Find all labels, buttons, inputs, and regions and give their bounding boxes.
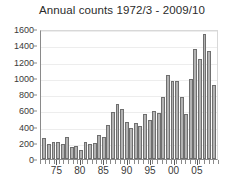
- y-tick-mark: [33, 111, 37, 112]
- chart-figure: Annual counts 1972/3 - 2009/10 020040060…: [0, 0, 244, 184]
- bar: [212, 85, 216, 159]
- x-tick-label: 80: [74, 165, 85, 176]
- x-tick-mark-minor: [96, 160, 97, 164]
- x-tick-mark-minor: [171, 160, 172, 164]
- x-tick-mark-minor: [68, 160, 69, 164]
- x-tick-mark-minor: [73, 160, 74, 164]
- bar: [207, 51, 211, 159]
- x-tick-mark-minor: [190, 160, 191, 164]
- x-tick-mark-minor: [209, 160, 210, 164]
- plot-area: [40, 30, 218, 160]
- x-tick-mark-minor: [129, 160, 130, 164]
- x-tick-mark-minor: [162, 160, 163, 164]
- bar: [52, 142, 56, 159]
- x-tick-mark-minor: [218, 160, 219, 164]
- x-tick-mark-minor: [92, 160, 93, 164]
- bar: [129, 128, 133, 159]
- x-tick-label: 85: [98, 165, 109, 176]
- bar: [56, 142, 60, 159]
- x-tick-mark-minor: [101, 160, 102, 164]
- x-tick-mark-minor: [148, 160, 149, 164]
- x-tick-mark-minor: [138, 160, 139, 164]
- bar: [143, 114, 147, 159]
- bar: [152, 111, 156, 159]
- x-tick-mark-minor: [124, 160, 125, 164]
- bar-series: [41, 31, 217, 159]
- y-tick-mark: [33, 160, 37, 161]
- bar: [125, 122, 129, 159]
- bar: [111, 112, 115, 159]
- bar: [61, 144, 65, 159]
- bar: [65, 137, 69, 159]
- x-tick-label: 95: [145, 165, 156, 176]
- x-axis-labels: 75808590950005: [40, 165, 218, 181]
- x-tick-label: 05: [191, 165, 202, 176]
- x-tick-mark-minor: [157, 160, 158, 164]
- bar: [148, 120, 152, 159]
- y-tick-label: 400: [19, 123, 34, 133]
- y-tick-mark: [33, 46, 37, 47]
- bar: [97, 135, 101, 159]
- x-tick-mark-minor: [181, 160, 182, 164]
- bar: [102, 137, 106, 159]
- bar: [70, 147, 74, 159]
- y-tick-mark: [33, 30, 37, 31]
- x-tick-mark-minor: [82, 160, 83, 164]
- x-tick-label: 75: [51, 165, 62, 176]
- bar: [79, 150, 83, 159]
- y-tick-label: 200: [19, 139, 34, 149]
- x-tick-mark-minor: [77, 160, 78, 164]
- y-axis: 02004006008001000120014001600: [0, 30, 37, 160]
- x-tick-mark-minor: [87, 160, 88, 164]
- bar: [84, 142, 88, 159]
- chart-title: Annual counts 1972/3 - 2009/10: [0, 4, 244, 16]
- x-tick-mark-minor: [204, 160, 205, 164]
- x-tick-mark-minor: [152, 160, 153, 164]
- bar: [134, 123, 138, 159]
- bar: [166, 75, 170, 160]
- bar: [138, 126, 142, 159]
- bar: [203, 34, 207, 159]
- bar: [157, 113, 161, 159]
- x-tick-mark-minor: [199, 160, 200, 164]
- bar: [42, 138, 46, 159]
- y-tick-label: 600: [19, 106, 34, 116]
- bar: [88, 144, 92, 159]
- bar: [171, 81, 175, 159]
- y-tick-mark: [33, 95, 37, 96]
- x-tick-mark-minor: [59, 160, 60, 164]
- x-tick-mark-minor: [45, 160, 46, 164]
- y-tick-mark: [33, 143, 37, 144]
- bar: [161, 97, 165, 159]
- x-tick-mark-minor: [106, 160, 107, 164]
- bar: [180, 97, 184, 159]
- y-tick-mark: [33, 78, 37, 79]
- x-tick-mark-minor: [195, 160, 196, 164]
- bar: [74, 146, 78, 159]
- x-tick-label: 90: [121, 165, 132, 176]
- x-tick-mark-minor: [115, 160, 116, 164]
- x-tick-mark-minor: [166, 160, 167, 164]
- y-tick-label: 1200: [14, 58, 34, 68]
- x-tick-mark-minor: [49, 160, 50, 164]
- x-tick-mark-minor: [110, 160, 111, 164]
- x-tick-mark-minor: [185, 160, 186, 164]
- bar: [198, 59, 202, 159]
- x-tick-mark-minor: [134, 160, 135, 164]
- x-tick-mark-minor: [143, 160, 144, 164]
- bar: [175, 81, 179, 159]
- y-tick-label: 1000: [14, 74, 34, 84]
- x-tick-mark-minor: [120, 160, 121, 164]
- bar: [193, 49, 197, 159]
- x-tick-label: 00: [168, 165, 179, 176]
- bar: [106, 125, 110, 159]
- bar: [120, 109, 124, 159]
- y-tick-label: 1600: [14, 25, 34, 35]
- bar: [93, 143, 97, 159]
- y-tick-label: 800: [19, 90, 34, 100]
- bar: [47, 144, 51, 159]
- bar: [116, 104, 120, 159]
- bar: [189, 79, 193, 159]
- y-tick-mark: [33, 127, 37, 128]
- x-tick-mark-minor: [54, 160, 55, 164]
